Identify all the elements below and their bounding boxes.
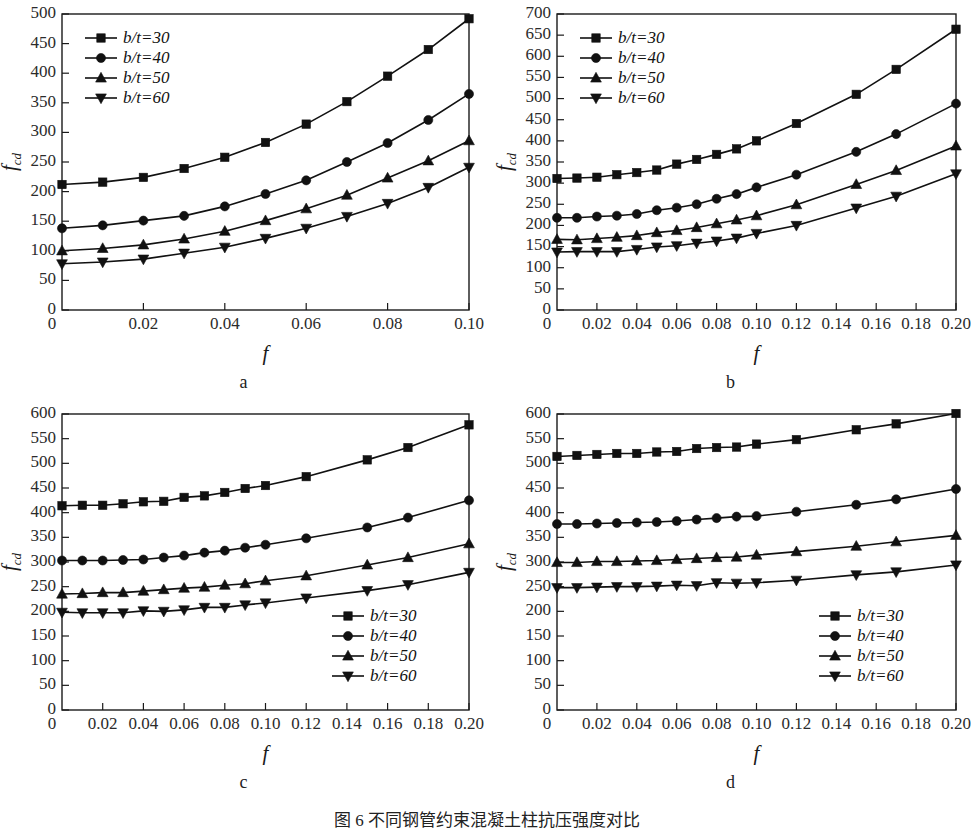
y-tick-label: 500	[526, 452, 552, 471]
y-tick-label: 500	[526, 87, 552, 106]
square-marker	[139, 498, 147, 506]
x-tick-label: 0.20	[941, 314, 971, 333]
square-marker	[792, 435, 800, 443]
y-tick-label: 400	[31, 502, 57, 521]
triangle-up-marker	[818, 647, 852, 665]
y-tick-label: 250	[31, 151, 57, 170]
plot-area-d: 05010015020025030035040045050055060000.0…	[487, 400, 974, 800]
x-tick-label: 0.06	[662, 714, 692, 733]
triangle-down-marker	[464, 163, 475, 173]
square-marker	[952, 25, 960, 33]
y-tick-label: 350	[526, 151, 552, 170]
square-marker	[302, 472, 310, 480]
x-tick-label: 0.02	[582, 714, 612, 733]
square-marker	[712, 443, 720, 451]
legend-item: b/t=50	[818, 646, 903, 666]
triangle-down-marker	[84, 89, 118, 107]
x-tick-label: 0.16	[373, 714, 403, 733]
square-marker	[633, 168, 641, 176]
y-tick-label: 450	[31, 33, 57, 52]
square-marker	[383, 72, 391, 80]
legend-label: b/t=30	[370, 606, 416, 626]
y-tick-label: 450	[526, 109, 552, 128]
plot-area-c: 05010015020025030035040045050055060000.0…	[0, 400, 487, 800]
circle-marker	[261, 540, 270, 549]
legend-item: b/t=40	[331, 626, 416, 646]
legend-item: b/t=30	[579, 28, 664, 48]
square-marker	[241, 484, 249, 492]
circle-marker	[302, 176, 311, 185]
y-tick-label: 350	[526, 526, 552, 545]
legend-label: b/t=40	[857, 626, 903, 646]
series-b-t-30	[553, 409, 960, 460]
legend-label: b/t=60	[123, 88, 169, 108]
circle-marker	[712, 514, 721, 523]
circle-marker	[424, 115, 433, 124]
y-tick-label: 400	[31, 62, 57, 81]
chart-panel-b: 0501001502002503003504004505005506006507…	[487, 0, 974, 400]
square-marker	[221, 488, 229, 496]
legend-item: b/t=50	[331, 646, 416, 666]
square-marker	[573, 451, 581, 459]
y-tick-label: 550	[526, 66, 552, 85]
square-marker	[180, 164, 188, 172]
legend-d: b/t=30b/t=40b/t=50b/t=60	[818, 606, 903, 686]
x-tick-label: 0.04	[129, 714, 159, 733]
legend-label: b/t=50	[370, 646, 416, 666]
circle-marker	[331, 627, 365, 645]
x-tick-label: 0.10	[742, 714, 772, 733]
square-marker	[465, 421, 473, 429]
legend-a: b/t=30b/t=40b/t=50b/t=60	[84, 28, 169, 108]
square-marker	[139, 173, 147, 181]
circle-marker	[342, 157, 351, 166]
square-marker	[852, 90, 860, 98]
square-marker	[302, 120, 310, 128]
x-tick-label: 0.06	[291, 314, 321, 333]
square-marker	[553, 452, 561, 460]
x-tick-label: 0.08	[210, 714, 240, 733]
triangle-up-marker	[464, 135, 475, 145]
circle-marker	[383, 139, 392, 148]
triangle-up-marker	[423, 155, 434, 165]
x-tick-label: 0.14	[332, 714, 362, 733]
x-tick-label: 0.18	[413, 714, 443, 733]
square-marker	[404, 443, 412, 451]
circle-marker	[652, 518, 661, 527]
square-marker	[99, 501, 107, 509]
chart-svg-d: 05010015020025030035040045050055060000.0…	[487, 400, 974, 800]
circle-marker	[84, 49, 118, 67]
series-b-t-40	[552, 484, 960, 528]
triangle-down-marker	[579, 89, 613, 107]
square-marker	[892, 65, 900, 73]
x-tick-label: 0.10	[251, 714, 281, 733]
square-marker	[84, 29, 118, 47]
circle-marker	[57, 556, 66, 565]
square-marker	[593, 450, 601, 458]
circle-marker	[951, 484, 960, 493]
circle-marker	[464, 89, 473, 98]
square-marker	[424, 45, 432, 53]
square-marker	[593, 173, 601, 181]
circle-marker	[78, 556, 87, 565]
x-tick-label: 0.16	[861, 314, 891, 333]
circle-marker	[632, 209, 641, 218]
x-tick-label: 0.14	[821, 314, 851, 333]
circle-marker	[752, 183, 761, 192]
legend-item: b/t=50	[579, 68, 664, 88]
y-tick-label: 50	[534, 278, 551, 297]
square-marker	[673, 447, 681, 455]
legend-label: b/t=60	[857, 666, 903, 686]
legend-label: b/t=40	[123, 48, 169, 68]
triangle-up-marker	[464, 538, 475, 548]
triangle-down-marker	[731, 579, 742, 589]
square-marker	[579, 29, 613, 47]
circle-marker	[612, 518, 621, 527]
x-tick-label: 0.20	[941, 714, 971, 733]
triangle-down-marker	[818, 667, 852, 685]
series-line	[62, 94, 469, 228]
circle-marker	[892, 495, 901, 504]
square-marker	[363, 456, 371, 464]
legend-label: b/t=40	[618, 48, 664, 68]
y-tick-label: 150	[526, 625, 552, 644]
circle-marker	[752, 512, 761, 521]
